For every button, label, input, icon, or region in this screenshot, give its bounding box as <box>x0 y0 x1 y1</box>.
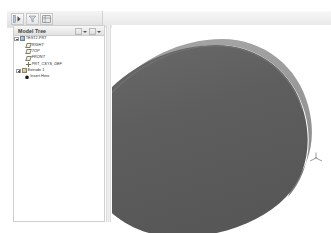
plane-icon <box>25 49 32 54</box>
tree-filter-menu[interactable] <box>75 28 87 36</box>
filter-button[interactable] <box>26 13 39 25</box>
model-tree-items[interactable]: TEST2.PRT RIGHT TOP FRONT PRT_CSYS_DEF <box>14 36 98 221</box>
filter-icon <box>28 15 37 23</box>
plane-icon <box>25 43 32 48</box>
panel-splitter[interactable] <box>106 25 111 222</box>
tree-settings-menu[interactable] <box>89 28 101 36</box>
expand-toggle-icon[interactable] <box>16 69 21 74</box>
tree-item-label: Extrude 1 <box>28 68 45 74</box>
show-tree-button[interactable] <box>11 13 24 25</box>
settings-dropdown-icon <box>89 28 96 35</box>
tree-item-csys[interactable]: PRT_CSYS_DEF <box>14 62 98 68</box>
expand-toggle-icon[interactable] <box>14 37 19 42</box>
tree-item-extrude[interactable]: Extrude 1 <box>14 68 98 74</box>
tree-item-label: TEST2.PRT <box>26 36 47 42</box>
part-icon <box>20 36 25 41</box>
grid-settings-icon <box>42 15 51 23</box>
panel-show-icon <box>13 15 22 23</box>
cad-application-window: Model Tree TEST2.PRT RIGHT TOP <box>0 0 331 233</box>
chevron-down-icon <box>97 31 101 33</box>
tree-item-datum-right[interactable]: RIGHT <box>14 42 98 48</box>
extruded-solid-model <box>112 25 331 233</box>
tree-item-label: TOP <box>32 49 40 55</box>
tree-item-label: PRT_CSYS_DEF <box>32 62 62 68</box>
insert-icon <box>25 75 29 79</box>
model-tree-title: Model Tree <box>18 28 46 34</box>
csys-icon <box>26 62 31 67</box>
filter-dropdown-icon <box>75 28 82 35</box>
plane-icon <box>25 56 32 61</box>
tree-item-datum-top[interactable]: TOP <box>14 49 98 55</box>
chevron-down-icon <box>83 31 87 33</box>
model-top-face <box>112 45 308 233</box>
datum-csys-marker <box>308 151 324 165</box>
graphics-window[interactable] <box>112 25 331 233</box>
tree-item-label: Insert Here <box>30 74 49 80</box>
feature-icon <box>22 68 27 73</box>
tree-item-part[interactable]: TEST2.PRT <box>14 36 98 42</box>
tree-item-datum-front[interactable]: FRONT <box>14 55 98 61</box>
model-tree-header: Model Tree <box>13 25 105 36</box>
tree-item-insert-here[interactable]: Insert Here <box>14 74 98 80</box>
tree-item-label: RIGHT <box>32 43 44 49</box>
settings-button[interactable] <box>40 13 53 25</box>
tree-item-label: FRONT <box>32 55 45 61</box>
